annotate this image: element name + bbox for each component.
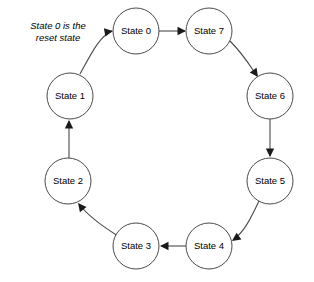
transition-line [79, 204, 118, 236]
reset-state-annotation: State 0 is the reset state [18, 20, 98, 44]
state-label: State 1 [55, 90, 85, 101]
state-label: State 0 [121, 25, 151, 36]
arrow-head-icon [266, 149, 274, 158]
transition-edge [160, 242, 186, 250]
state-node-state0[interactable]: State 0 [113, 8, 159, 54]
state-label: State 2 [53, 175, 83, 186]
state-node-state2[interactable]: State 2 [45, 158, 91, 204]
transition-edge [266, 119, 274, 157]
state-node-state5[interactable]: State 5 [247, 158, 293, 204]
state-node-state7[interactable]: State 7 [186, 8, 232, 54]
state-node-state3[interactable]: State 3 [113, 223, 159, 269]
nodes-layer: State 0State 7State 6State 5State 4State… [45, 8, 293, 269]
state-node-state1[interactable]: State 1 [47, 73, 93, 119]
transition-edge [230, 201, 259, 244]
arrow-head-icon [65, 120, 73, 129]
state-label: State 6 [255, 90, 285, 101]
transition-edge [159, 27, 186, 35]
state-label: State 7 [194, 25, 224, 36]
edges-layer [65, 27, 274, 250]
state-node-state4[interactable]: State 4 [186, 223, 232, 269]
state-label: State 4 [194, 240, 224, 251]
arrow-head-icon [104, 27, 114, 37]
state-diagram-canvas: State 0State 7State 6State 5State 4State… [0, 0, 314, 282]
arrow-head-icon [178, 27, 187, 35]
transition-edge [75, 200, 118, 236]
state-label: State 3 [121, 240, 151, 251]
state-label: State 5 [255, 175, 285, 186]
transition-edge [230, 41, 261, 79]
state-node-state6[interactable]: State 6 [247, 73, 293, 119]
transition-edge [65, 120, 73, 158]
arrow-head-icon [160, 242, 169, 250]
